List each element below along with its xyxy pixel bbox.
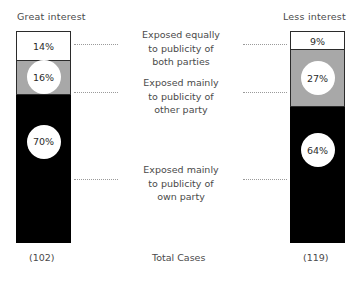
segment-value-equal-left: 14% bbox=[17, 40, 70, 51]
annotation-line-1: Exposed mainly bbox=[121, 163, 241, 177]
annotation-line-3: other party bbox=[121, 103, 241, 117]
column-header-great-interest: Great interest bbox=[17, 11, 86, 22]
segment-value-other-left: 16% bbox=[27, 60, 61, 94]
segment-other-right[interactable]: 27% bbox=[290, 50, 345, 107]
segment-value-own-left: 70% bbox=[27, 125, 61, 159]
bar-great-interest: 14% 16% 70% bbox=[16, 31, 71, 243]
annotation-line-1: Exposed mainly bbox=[121, 76, 241, 90]
segment-own-left[interactable]: 70% bbox=[16, 95, 71, 243]
leader-line-own-left bbox=[74, 179, 118, 180]
axis-caption-total-cases: Total Cases bbox=[152, 252, 205, 263]
annotation-line-2: to publicity of bbox=[121, 42, 241, 56]
bar-less-interest: 9% 27% 64% bbox=[290, 31, 345, 243]
leader-line-own-right bbox=[243, 179, 287, 180]
annotation-line-2: to publicity of bbox=[121, 90, 241, 104]
column-header-less-interest: Less interest bbox=[283, 11, 346, 22]
total-cases-less-interest: (119) bbox=[303, 252, 329, 263]
segment-value-own-right: 64% bbox=[301, 133, 335, 167]
total-cases-great-interest: (102) bbox=[29, 252, 55, 263]
annotation-line-3: both parties bbox=[121, 55, 241, 69]
segment-value-equal-right: 9% bbox=[291, 35, 344, 46]
annotation-line-3: own party bbox=[121, 190, 241, 204]
annotation-line-1: Exposed equally bbox=[121, 28, 241, 42]
segment-value-other-right: 27% bbox=[301, 61, 335, 95]
leader-line-equal-left bbox=[74, 44, 118, 45]
segment-other-left[interactable]: 16% bbox=[16, 61, 71, 95]
annotation-exposed-own-party: Exposed mainly to publicity of own party bbox=[121, 163, 241, 204]
annotation-line-2: to publicity of bbox=[121, 177, 241, 191]
leader-line-other-left bbox=[74, 92, 118, 93]
segment-equal-left[interactable]: 14% bbox=[16, 31, 71, 61]
annotation-exposed-equally: Exposed equally to publicity of both par… bbox=[121, 28, 241, 69]
leader-line-equal-right bbox=[243, 44, 287, 45]
annotation-exposed-other-party: Exposed mainly to publicity of other par… bbox=[121, 76, 241, 117]
leader-line-other-right bbox=[243, 92, 287, 93]
segment-equal-right[interactable]: 9% bbox=[290, 31, 345, 50]
stacked-bar-chart: Great interest Less interest 14% 16% 70%… bbox=[0, 0, 362, 281]
segment-own-right[interactable]: 64% bbox=[290, 107, 345, 243]
